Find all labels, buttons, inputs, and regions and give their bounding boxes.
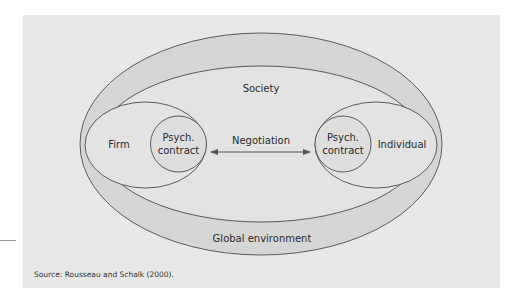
society-label: Society [243,83,280,94]
firm-psych-contract-circle [151,116,207,172]
firm-psych-label-line2: contract [158,145,200,156]
individual-label: Individual [378,139,427,150]
negotiation-label: Negotiation [232,135,290,146]
individual-psych-contract-circle [315,116,371,172]
individual-psych-label-line2: contract [322,145,364,156]
source-caption: Source: Rousseau and Schalk (2000). [34,270,174,279]
global-environment-label: Global environment [213,233,312,244]
firm-psych-label-line1: Psych. [163,132,195,143]
firm-label: Firm [108,139,129,150]
psych-contract-diagram: Society Firm Individual Psych. contract … [0,0,523,302]
individual-psych-label-line1: Psych. [327,132,359,143]
